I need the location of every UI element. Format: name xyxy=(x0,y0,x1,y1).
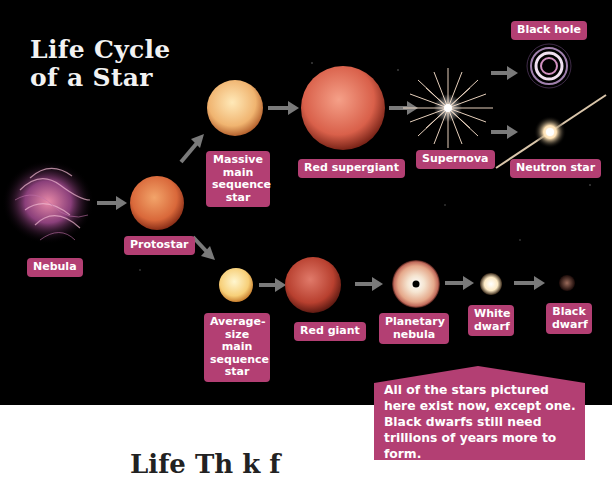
average-star-icon xyxy=(219,268,253,302)
label-red-supergiant: Red supergiant xyxy=(298,159,405,178)
bottom-heading-partial: Life Th k f xyxy=(130,451,281,477)
label-massive-main-sequence-star: Massive main sequence star xyxy=(206,151,270,207)
nebula-icon xyxy=(2,160,94,244)
label-nebula: Nebula xyxy=(27,258,83,277)
red-giant-icon xyxy=(285,257,341,313)
white-dwarf-icon xyxy=(480,273,502,295)
red-supergiant-icon xyxy=(301,66,385,150)
label-black-dwarf: Black dwarf xyxy=(546,303,592,334)
label-black-hole: Black hole xyxy=(511,21,587,40)
label-supernova: Supernova xyxy=(416,150,495,169)
title-line-1: Life Cycle xyxy=(30,36,171,64)
label-neutron-star: Neutron star xyxy=(510,159,601,178)
title-line-2: of a Star xyxy=(30,64,171,92)
label-white-dwarf: White dwarf xyxy=(468,305,514,336)
callout-text: All of the stars pictured here exist now… xyxy=(384,382,580,462)
label-red-giant: Red giant xyxy=(294,322,366,341)
label-average-size-main-sequence-star: Average- size main sequence star xyxy=(204,313,270,382)
callout-box: All of the stars pictured here exist now… xyxy=(374,366,585,460)
label-planetary-nebula: Planetary nebula xyxy=(379,313,449,344)
diagram-title: Life Cycle of a Star xyxy=(30,36,171,92)
black-hole-icon xyxy=(527,44,571,88)
label-protostar: Protostar xyxy=(124,236,195,255)
protostar-icon xyxy=(130,176,184,230)
planetary-nebula-icon xyxy=(392,260,440,308)
diagram-background: Life Cycle of a Star Nebula Protostar Ma… xyxy=(0,0,612,405)
black-dwarf-icon xyxy=(559,275,575,291)
supernova-icon xyxy=(403,68,493,148)
massive-star-icon xyxy=(207,80,263,136)
